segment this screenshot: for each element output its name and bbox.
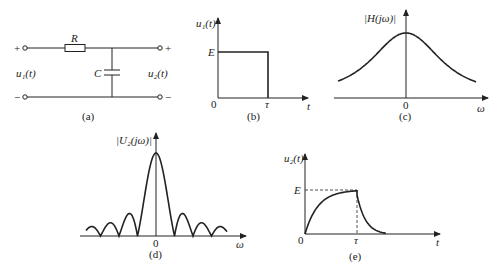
y-axis-label: u₁(t) xyxy=(196,17,216,30)
panel-d-output-spectrum: |U₂(jω)| 0 ω (d) xyxy=(80,133,246,261)
output-minus-sign: − xyxy=(165,91,171,103)
panel-b-input-pulse: u₁(t) E 0 τ t (b) xyxy=(196,17,311,123)
magnitude-curve xyxy=(338,33,476,82)
output-terminal-top xyxy=(158,46,162,50)
tau-label: τ xyxy=(354,234,359,246)
input-voltage-label: u₁(t) xyxy=(16,67,36,80)
caption-b: (b) xyxy=(247,110,260,123)
level-label: E xyxy=(293,184,301,196)
capacitor-label: C xyxy=(94,67,102,79)
input-terminal-bottom xyxy=(23,95,27,99)
x-axis-label: t xyxy=(436,236,440,248)
response-curve xyxy=(305,191,386,234)
output-plus-sign: + xyxy=(165,42,171,54)
panel-e-output-response: u₂(t) E 0 τ t (e) xyxy=(284,152,440,263)
panel-a-circuit: + − + − R C u₁(t) u₂(t) (a) xyxy=(14,32,171,123)
y-axis-label: u₂(t) xyxy=(284,152,304,165)
caption-e: (e) xyxy=(349,250,362,263)
figure: + − + − R C u₁(t) u₂(t) (a) u₁(t) E 0 τ … xyxy=(0,0,502,278)
pulse-curve xyxy=(218,52,268,98)
level-label: E xyxy=(207,46,215,58)
x-axis-label: ω xyxy=(477,102,485,114)
caption-c: (c) xyxy=(399,110,412,123)
output-voltage-label: u₂(t) xyxy=(148,67,168,80)
input-minus-sign: − xyxy=(14,91,20,103)
output-terminal-bottom xyxy=(158,95,162,99)
panel-c-frequency-response: |H(jω)| 0 ω (c) xyxy=(334,10,488,123)
origin-label: 0 xyxy=(211,98,217,110)
x-axis-label: t xyxy=(307,100,311,112)
origin-label: 0 xyxy=(298,234,304,246)
input-plus-sign: + xyxy=(14,42,20,54)
caption-a: (a) xyxy=(82,110,95,123)
y-axis-label: |H(jω)| xyxy=(364,12,396,25)
x-axis-label: ω xyxy=(236,238,244,250)
input-terminal-top xyxy=(23,46,27,50)
caption-d: (d) xyxy=(149,248,162,261)
tau-label: τ xyxy=(265,98,270,110)
y-axis-label: |U₂(jω)| xyxy=(116,134,152,147)
resistor xyxy=(65,45,85,52)
resistor-label: R xyxy=(70,32,78,44)
